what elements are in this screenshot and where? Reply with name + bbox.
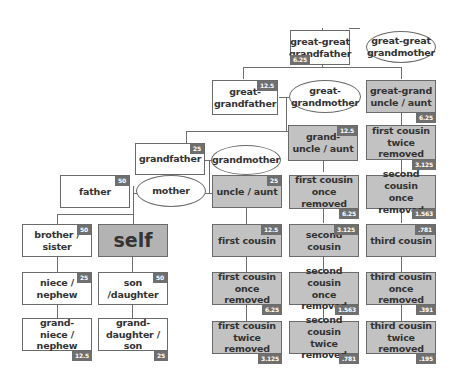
dna-percent-badge: 12.5 <box>72 351 92 361</box>
node-grandmother: grandmother <box>211 145 281 175</box>
dna-percent-badge: .781 <box>415 225 435 235</box>
node-first-cousin: first cousin 12.5 <box>212 224 282 257</box>
node-second-cousin-twice-removed: second cousin twice removed .781 <box>289 321 359 354</box>
dna-percent-badge: 3.125 <box>334 225 358 235</box>
dna-percent-badge: 25 <box>77 273 91 283</box>
connector-line <box>323 160 324 172</box>
dna-percent-badge: 12.5 <box>337 126 357 136</box>
node-label: third cousin twice removed <box>367 320 435 356</box>
connector-line <box>401 67 402 79</box>
node-grandfather: grandfather 25 <box>135 143 205 175</box>
node-label: first cousin once removed <box>290 174 358 210</box>
connector-line <box>246 208 247 224</box>
dna-percent-badge: 6.25 <box>416 113 436 123</box>
dna-percent-badge: 25 <box>267 176 281 186</box>
node-label: mother <box>152 185 190 197</box>
connector-line <box>246 305 247 321</box>
connector-line <box>401 305 402 321</box>
node-label: first cousin twice removed <box>367 125 435 161</box>
connector-line <box>349 28 360 29</box>
dna-percent-badge: 12.5 <box>261 225 281 235</box>
dna-percent-badge: 12.5 <box>257 81 277 91</box>
node-great-great-grandmother: great-great grandmother <box>366 31 436 63</box>
node-third-cousin-twice-removed: third cousin twice removed .195 <box>366 321 436 354</box>
node-self: self <box>98 224 168 257</box>
node-son-daughter: son /daughter 50 <box>98 272 168 305</box>
node-label: grand- daughter / son <box>99 317 167 353</box>
connector-line <box>279 97 289 98</box>
dna-percent-badge: 50 <box>153 273 167 283</box>
node-label: first cousin <box>218 235 276 247</box>
node-great-grandfather: great- grandfather 12.5 <box>212 80 278 115</box>
node-niece-nephew: niece / nephew 25 <box>22 272 92 305</box>
node-second-cousin-once-removed-upper: second cousin once removed 1.563 <box>366 175 436 209</box>
node-first-cousin-twice-removed-lower: first cousin twice removed 3.125 <box>212 321 282 354</box>
dna-percent-badge: 50 <box>77 225 91 235</box>
connector-line <box>323 209 324 223</box>
connector-line <box>132 256 133 272</box>
connector-line <box>243 67 402 68</box>
node-uncle-aunt: uncle / aunt 25 <box>212 175 282 208</box>
node-first-cousin-once-removed-upper: first cousin once removed 6.25 <box>289 175 359 209</box>
node-third-cousin: third cousin .781 <box>366 224 436 257</box>
node-mother: mother <box>136 175 206 207</box>
dna-percent-badge: .195 <box>416 354 436 364</box>
connector-line <box>57 214 134 215</box>
node-grand-daughter-son: grand- daughter / son 25 <box>98 318 168 351</box>
node-first-cousin-twice-removed-upper: first cousin twice removed 3.125 <box>366 125 436 160</box>
connector-line <box>133 186 134 215</box>
connector-line <box>286 97 287 132</box>
node-great-grand-uncle-aunt: great-grand uncle / aunt 6.25 <box>366 80 436 113</box>
dna-percent-badge: .781 <box>339 354 359 364</box>
node-label: great-grand uncle / aunt <box>370 85 432 109</box>
dna-percent-badge: 3.125 <box>258 354 282 364</box>
node-label: grandmother <box>212 154 280 166</box>
connector-line <box>401 256 402 272</box>
node-label: grand- niece / nephew <box>23 317 91 353</box>
node-second-cousin-once-removed-lower: second cousin once removed 1.563 <box>289 272 359 305</box>
connector-line <box>186 131 187 143</box>
connector-line <box>209 160 210 194</box>
node-label: first cousin once removed <box>213 271 281 307</box>
connector-line <box>57 256 58 272</box>
node-brother-sister: brother / sister 50 <box>22 224 92 257</box>
dna-percent-badge: 6.25 <box>262 305 282 315</box>
node-label: third cousin once removed <box>367 271 435 307</box>
node-second-cousin: second cousin 3.125 <box>289 224 359 257</box>
node-father: father 50 <box>60 175 130 208</box>
node-label: first cousin twice removed <box>213 320 281 356</box>
dna-percent-badge: 25 <box>154 351 168 361</box>
dna-percent-badge: .391 <box>416 305 436 315</box>
node-first-cousin-once-removed-lower: first cousin once removed 6.25 <box>212 272 282 305</box>
dna-percent-badge: 6.25 <box>290 55 310 65</box>
node-great-great-grandfather: great-great grandfather 6.25 <box>290 30 350 65</box>
dna-percent-badge: 6.25 <box>339 209 359 219</box>
node-third-cousin-once-removed: third cousin once removed .391 <box>366 272 436 305</box>
node-label: self <box>114 229 153 253</box>
node-label: third cousin <box>370 235 432 247</box>
node-label: grandfather <box>139 153 201 165</box>
connector-line <box>243 67 244 79</box>
node-label: great- grandmother <box>291 85 359 109</box>
dna-percent-badge: 1.563 <box>412 209 436 219</box>
node-label: great-great grandmother <box>367 35 435 59</box>
connector-line <box>401 113 402 125</box>
dna-percent-badge: 50 <box>115 176 129 186</box>
node-grand-niece-nephew: grand- niece / nephew 12.5 <box>22 318 92 351</box>
dna-percent-badge: 25 <box>190 144 204 154</box>
node-label: uncle / aunt <box>216 186 277 198</box>
connector-line <box>246 256 247 272</box>
node-grand-uncle-aunt: grand- uncle / aunt 12.5 <box>288 125 358 161</box>
node-label: father <box>79 186 111 198</box>
node-great-grandmother: great- grandmother <box>289 80 361 113</box>
